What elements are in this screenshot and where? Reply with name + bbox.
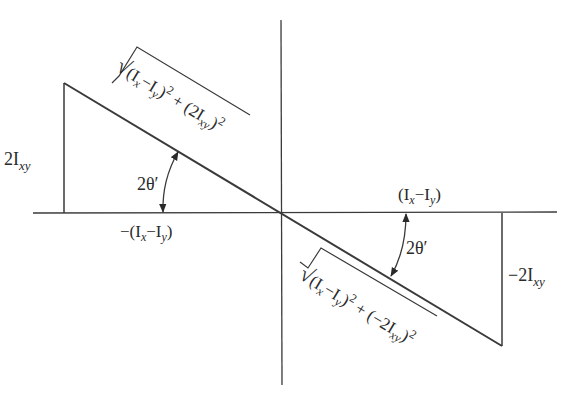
left-base-label: −(Ix−Iy) (120, 222, 173, 244)
right-angle-label: 2θ′ (406, 238, 428, 258)
hypotenuse-line (64, 83, 502, 346)
left-hypotenuse-label: √(Ix−Iy)2 + (2Ixy)2 (111, 53, 229, 139)
right-height-label: −2Ixy (508, 265, 545, 289)
right-angle-arc (391, 214, 406, 276)
right-hypotenuse-label: √(Ix−Iy)2 + (−2Ixy)2 (294, 261, 420, 352)
vertical-axis (281, 20, 282, 385)
left-height-label: 2Ixy (4, 149, 31, 173)
left-angle-arc (163, 152, 178, 212)
left-angle-label: 2θ′ (137, 174, 159, 194)
right-base-label: (Ix−Iy) (398, 185, 441, 207)
horizontal-axis (33, 212, 557, 213)
principal-axes-diagram: 2Ixy −(Ix−Iy) 2θ′ √(Ix−Iy)2 + (2Ixy)2 (I… (0, 0, 583, 400)
